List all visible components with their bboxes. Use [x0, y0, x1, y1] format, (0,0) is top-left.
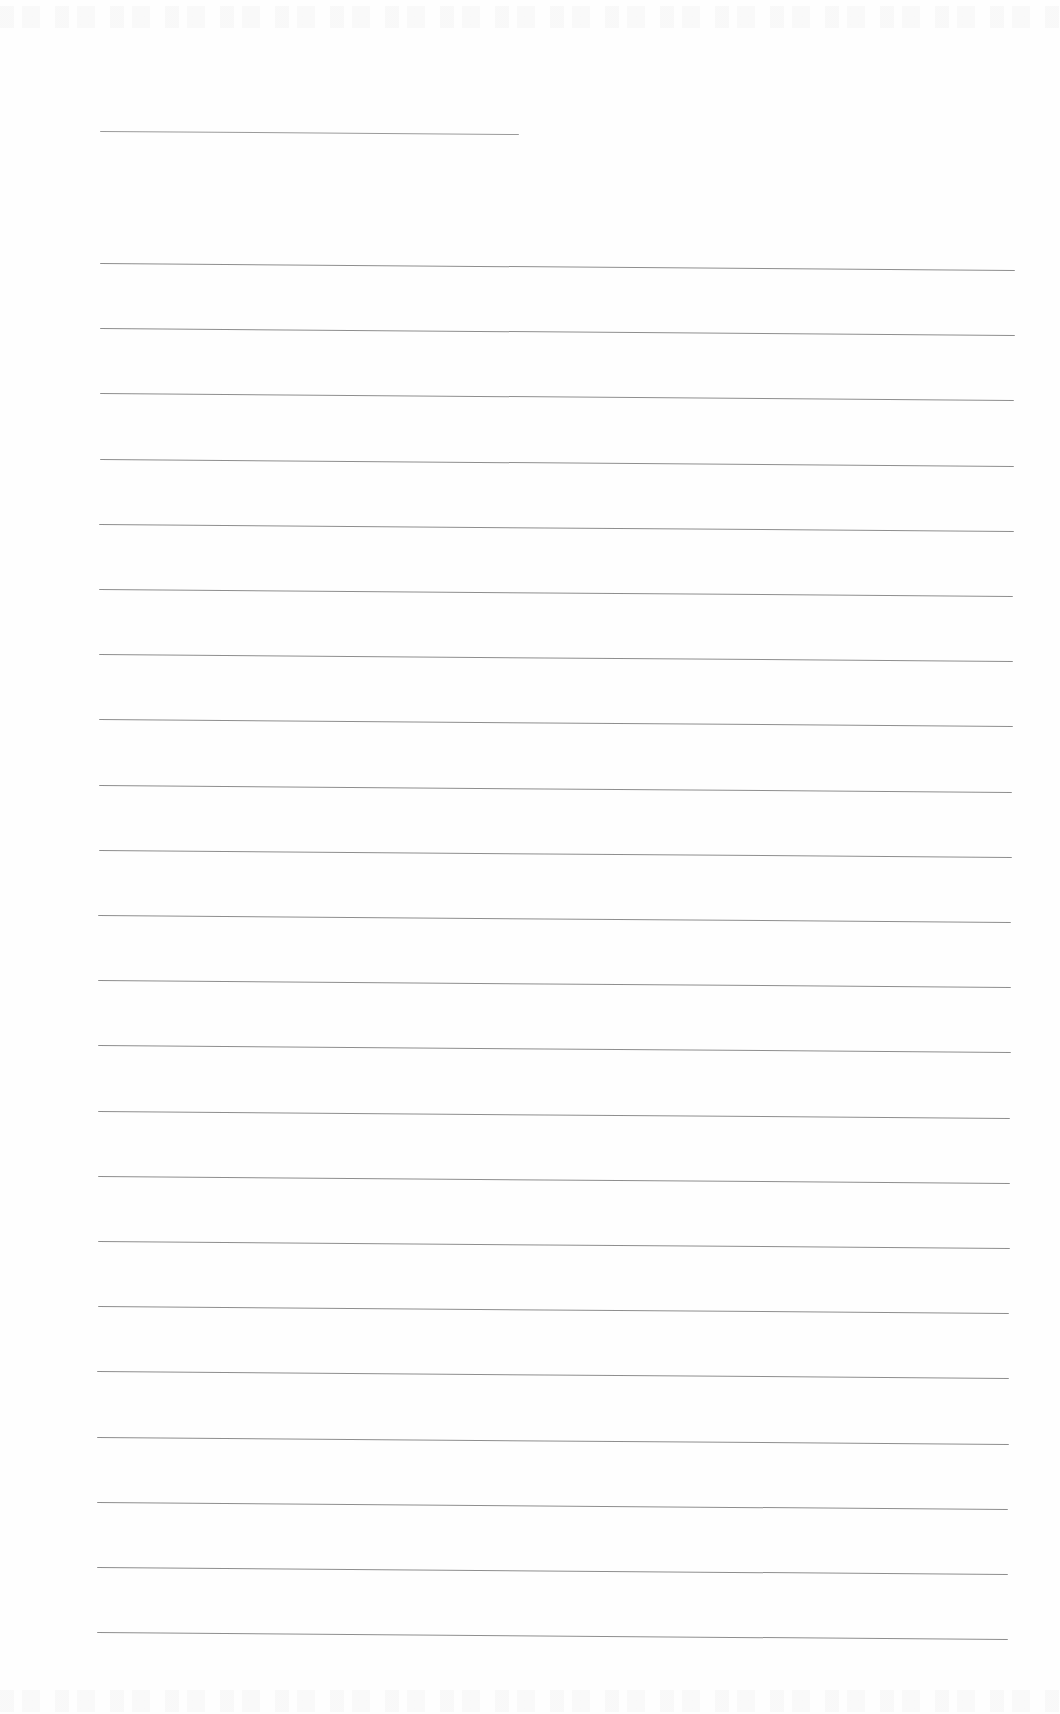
ruled-line	[97, 1502, 1008, 1510]
ruled-line	[99, 785, 1012, 793]
ruled-line	[99, 524, 1014, 532]
ruled-line	[98, 1306, 1009, 1314]
ruled-line	[100, 459, 1014, 467]
ruled-line	[98, 1176, 1010, 1184]
ruled-line	[98, 1241, 1010, 1249]
scan-bleed-top	[0, 6, 1060, 28]
ruled-line	[97, 1437, 1009, 1445]
ruled-line	[99, 719, 1013, 727]
ruled-line	[98, 1111, 1010, 1119]
ruled-line	[97, 1567, 1008, 1575]
ruled-line	[98, 980, 1011, 988]
ruled-line	[99, 589, 1013, 597]
title-line	[100, 131, 519, 135]
ruled-line	[99, 850, 1012, 858]
ruled-line	[100, 263, 1015, 271]
scan-bleed-bottom	[0, 1690, 1060, 1712]
ruled-line	[97, 1371, 1009, 1379]
ruled-line	[100, 393, 1014, 401]
lined-paper-page	[0, 0, 1060, 1714]
ruled-line	[100, 328, 1015, 336]
ruled-line	[99, 654, 1013, 662]
ruled-line	[98, 1045, 1011, 1053]
ruled-line	[97, 1632, 1008, 1640]
ruled-line	[98, 915, 1011, 923]
